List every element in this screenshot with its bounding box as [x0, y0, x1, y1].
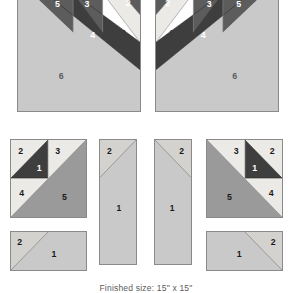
- figure-caption: Finished size: 15" x 15": [0, 283, 292, 293]
- unit-a-label-5: 5: [62, 192, 67, 202]
- unit-d: 3 2 1 4 5: [206, 139, 283, 218]
- large-left-label-2: 2: [126, 0, 131, 8]
- large-right-label-2: 2: [165, 0, 170, 8]
- unit-e-label-2: 2: [17, 237, 22, 247]
- unit-d-label-4: 4: [269, 188, 274, 198]
- unit-b-label-2: 2: [107, 146, 112, 156]
- large-left-label-6: 6: [59, 71, 64, 81]
- large-left-label-3: 3: [84, 0, 89, 9]
- figure-canvas: 5 3 2 1 4 6 5 3 2 1 4 6: [0, 0, 292, 293]
- large-right-label-4: 4: [201, 30, 206, 40]
- unit-d-label-3: 3: [234, 146, 239, 156]
- large-right-label-5: 5: [236, 0, 241, 9]
- large-block-right: 5 3 2 1 4 6: [155, 0, 279, 112]
- unit-f-label-1: 1: [237, 249, 242, 259]
- large-right-label-3: 3: [207, 0, 212, 9]
- unit-f: 2 1: [206, 231, 283, 271]
- unit-a-label-3: 3: [55, 146, 60, 156]
- unit-a-label-2: 2: [18, 146, 23, 156]
- large-left-label-1: 1: [122, 28, 127, 38]
- unit-a-label-4: 4: [19, 188, 24, 198]
- unit-e-label-1: 1: [51, 249, 56, 259]
- large-right-label-6: 6: [232, 71, 237, 81]
- unit-c-label-1: 1: [170, 203, 175, 213]
- large-left-label-4: 4: [90, 30, 95, 40]
- unit-d-label-5: 5: [227, 192, 232, 202]
- unit-e: 2 1: [10, 231, 87, 271]
- large-left-label-5: 5: [55, 0, 60, 9]
- unit-c: 2 1: [154, 139, 192, 265]
- unit-b-label-1: 1: [117, 203, 122, 213]
- unit-a-label-1: 1: [37, 163, 42, 173]
- large-block-left: 5 3 2 1 4 6: [17, 0, 141, 112]
- unit-d-label-1: 1: [252, 163, 257, 173]
- large-right-label-1: 1: [169, 28, 174, 38]
- unit-b: 2 1: [99, 139, 137, 265]
- unit-a: 2 3 1 4 5: [10, 139, 87, 218]
- unit-d-label-2: 2: [270, 146, 275, 156]
- unit-f-label-2: 2: [271, 237, 276, 247]
- unit-c-label-2: 2: [179, 146, 184, 156]
